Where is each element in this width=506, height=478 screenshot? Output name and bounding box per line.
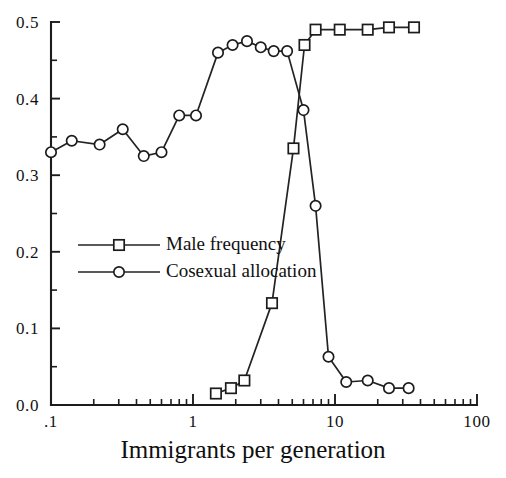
legend-label: Male frequency xyxy=(166,233,286,254)
data-point-circle xyxy=(213,47,223,57)
data-point-square xyxy=(363,24,373,34)
y-tick-label: 0.2 xyxy=(16,243,39,262)
series-cosexual-allocation xyxy=(46,36,414,393)
data-point-square xyxy=(409,22,419,32)
x-axis-tick-labels: .1110100 xyxy=(44,412,491,431)
x-axis-title: Immigrants per generation xyxy=(120,436,386,463)
chart-legend: Male frequencyCosexual allocation xyxy=(78,233,317,281)
data-point-circle xyxy=(191,110,201,120)
series-polyline xyxy=(51,41,409,388)
legend-marker-square xyxy=(114,240,124,250)
data-point-circle xyxy=(118,124,128,134)
y-axis-tick-labels: 0.00.10.20.30.40.5 xyxy=(16,13,39,415)
data-point-circle xyxy=(242,36,252,46)
data-point-circle xyxy=(256,42,266,52)
data-point-square xyxy=(384,22,394,32)
data-point-circle xyxy=(384,383,394,393)
data-point-circle xyxy=(67,136,77,146)
data-point-circle xyxy=(323,352,333,362)
y-tick-label: 0.0 xyxy=(16,396,39,415)
y-tick-label: 0.1 xyxy=(16,319,39,338)
data-point-square xyxy=(211,388,221,398)
y-tick-label: 0.5 xyxy=(16,13,39,32)
data-point-square xyxy=(288,143,298,153)
data-point-circle xyxy=(46,147,56,157)
data-series xyxy=(46,22,419,399)
y-tick-label: 0.4 xyxy=(16,90,39,109)
data-point-square xyxy=(335,24,345,34)
x-tick-label: 100 xyxy=(463,412,490,431)
data-point-circle xyxy=(341,377,351,387)
axes xyxy=(51,22,477,405)
x-tick-label: .1 xyxy=(44,412,58,431)
legend-marker-circle xyxy=(114,267,124,277)
line-chart: 0.00.10.20.30.40.5 .1110100 Male frequen… xyxy=(0,0,506,478)
data-point-circle xyxy=(94,139,104,149)
data-point-circle xyxy=(174,110,184,120)
data-point-circle xyxy=(268,46,278,56)
data-point-square xyxy=(299,40,309,50)
data-point-circle xyxy=(227,40,237,50)
data-point-square xyxy=(226,383,236,393)
data-point-circle xyxy=(139,151,149,161)
x-tick-label: 1 xyxy=(188,412,197,431)
data-point-square xyxy=(239,375,249,385)
legend-item-cosexual-allocation[interactable]: Cosexual allocation xyxy=(78,260,317,281)
data-point-square xyxy=(310,24,320,34)
legend-item-male-frequency[interactable]: Male frequency xyxy=(78,233,286,254)
data-point-square xyxy=(267,298,277,308)
data-point-circle xyxy=(298,105,308,115)
x-tick-label: 10 xyxy=(326,412,344,431)
data-point-circle xyxy=(363,375,373,385)
data-point-circle xyxy=(156,147,166,157)
axis-ticks xyxy=(51,22,477,405)
chart-figure: 0.00.10.20.30.40.5 .1110100 Male frequen… xyxy=(0,0,506,478)
data-point-circle xyxy=(403,383,413,393)
y-tick-label: 0.3 xyxy=(16,166,39,185)
legend-label: Cosexual allocation xyxy=(166,260,317,281)
data-point-circle xyxy=(310,201,320,211)
data-point-circle xyxy=(282,46,292,56)
